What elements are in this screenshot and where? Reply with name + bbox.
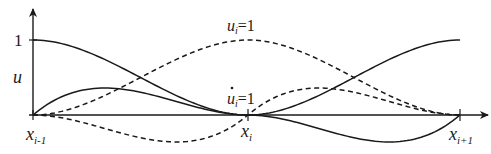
annotation-udot-equals-1: ui=1: [227, 90, 255, 109]
hermite-shape-function-diagram: 1 u xi-1 xi xi+1 ui=1 ui=1: [0, 0, 491, 154]
x-label-i-minus-1: xi-1: [25, 124, 46, 146]
x-label-i-plus-1: xi+1: [448, 124, 473, 146]
y-tick-label: 1: [14, 31, 23, 50]
curve-left-slope-solid: [33, 88, 248, 115]
y-axis-label: u: [13, 67, 22, 87]
curve-right-slope-solid: [248, 115, 460, 142]
x-label-i: xi: [240, 121, 252, 143]
derivative-dot: [231, 87, 234, 90]
curve-right-value-solid: [248, 40, 460, 115]
annotation-ui-equals-1: ui=1: [227, 17, 255, 36]
